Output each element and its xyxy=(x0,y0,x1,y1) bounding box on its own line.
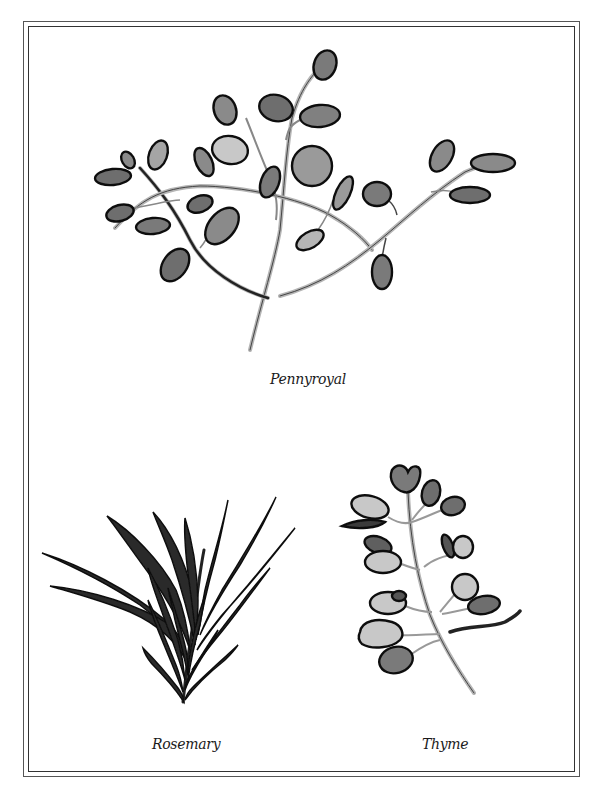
pennyroyal-sprig-icon xyxy=(94,47,515,350)
thyme-sprig-icon xyxy=(342,466,520,693)
drawings-canvas xyxy=(0,0,607,785)
thyme-caption: Thyme xyxy=(422,736,468,752)
illustration-page: Pennyroyal Rosemary Thyme xyxy=(0,0,607,785)
rosemary-caption: Rosemary xyxy=(152,736,220,752)
rosemary-sprig-icon xyxy=(42,497,295,702)
pennyroyal-caption: Pennyroyal xyxy=(270,371,346,387)
